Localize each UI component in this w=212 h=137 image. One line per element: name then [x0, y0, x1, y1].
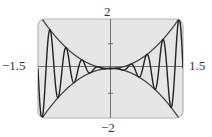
y-max-label: 2 — [104, 5, 111, 18]
y-min-label: −2 — [101, 121, 115, 134]
x-max-label: 1.5 — [189, 59, 205, 72]
chart — [0, 0, 212, 137]
x-min-label: −1.5 — [2, 59, 26, 72]
